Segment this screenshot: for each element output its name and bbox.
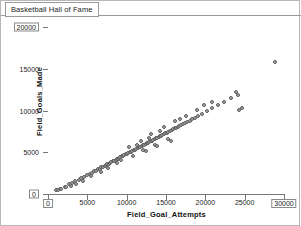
scatter-point[interactable] <box>144 149 148 153</box>
x-axis-title: Field_Goal_Attempts <box>48 210 285 219</box>
window-title-label: Basketball Hall of Fame <box>11 5 93 14</box>
scatter-point[interactable] <box>155 144 159 148</box>
scatter-point[interactable] <box>147 136 151 140</box>
x-tick-label: 0 <box>43 199 53 208</box>
y-tick-label: 5000 <box>23 149 39 156</box>
scatter-point[interactable] <box>99 170 103 174</box>
scatter-point[interactable] <box>69 184 73 188</box>
plot-window: Basketball Hall of Fame Field_Goals_Made… <box>0 0 300 226</box>
x-tick-label: 25000 <box>235 199 254 206</box>
scatter-point[interactable] <box>240 106 244 110</box>
y-tick-label: 15000 <box>20 65 39 72</box>
x-tick-label: 5000 <box>80 199 96 206</box>
scatter-point[interactable] <box>200 112 204 116</box>
scatter-point[interactable] <box>210 106 214 110</box>
scatter-point[interactable] <box>59 187 63 191</box>
scatter-point[interactable] <box>74 182 78 186</box>
scatter-point[interactable] <box>229 96 233 100</box>
y-tick <box>43 152 48 153</box>
scatter-point[interactable] <box>131 154 135 158</box>
scatter-point[interactable] <box>169 139 173 143</box>
scatter-point[interactable] <box>178 117 182 121</box>
scatter-point[interactable] <box>184 114 188 118</box>
x-tick-label: 30000 <box>271 199 296 208</box>
scatter-point[interactable] <box>115 161 119 165</box>
y-tick-label: 0 <box>29 190 39 199</box>
window-title-tab[interactable]: Basketball Hall of Fame <box>5 2 99 17</box>
scatter-point[interactable] <box>205 109 209 113</box>
scatter-point[interactable] <box>216 103 220 107</box>
scatter-point[interactable] <box>106 166 110 170</box>
scatter-point[interactable] <box>81 179 85 183</box>
scatter-point[interactable] <box>89 174 93 178</box>
scatter-point[interactable] <box>173 119 177 123</box>
y-tick <box>43 111 48 112</box>
scatter-point[interactable] <box>210 100 214 104</box>
scatter-point[interactable] <box>195 108 199 112</box>
scatter-plot-area[interactable] <box>48 27 284 194</box>
x-tick-label: 20000 <box>196 199 215 206</box>
x-tick-label: 10000 <box>117 199 136 206</box>
y-tick-label: 20000 <box>14 23 39 32</box>
x-tick-label: 15000 <box>156 199 175 206</box>
scatter-point[interactable] <box>149 132 153 136</box>
scatter-point[interactable] <box>273 60 277 64</box>
scatter-point[interactable] <box>162 125 166 129</box>
y-tick-label: 10000 <box>20 107 39 114</box>
scatter-point[interactable] <box>135 143 139 147</box>
y-tick <box>43 27 48 28</box>
y-tick <box>43 69 48 70</box>
scatter-point[interactable] <box>119 158 123 162</box>
y-axis-title: Field_Goals_Made <box>35 42 44 162</box>
scatter-point[interactable] <box>202 103 206 107</box>
scatter-point[interactable] <box>64 185 68 189</box>
scatter-point[interactable] <box>222 100 226 104</box>
scatter-point[interactable] <box>56 188 60 192</box>
